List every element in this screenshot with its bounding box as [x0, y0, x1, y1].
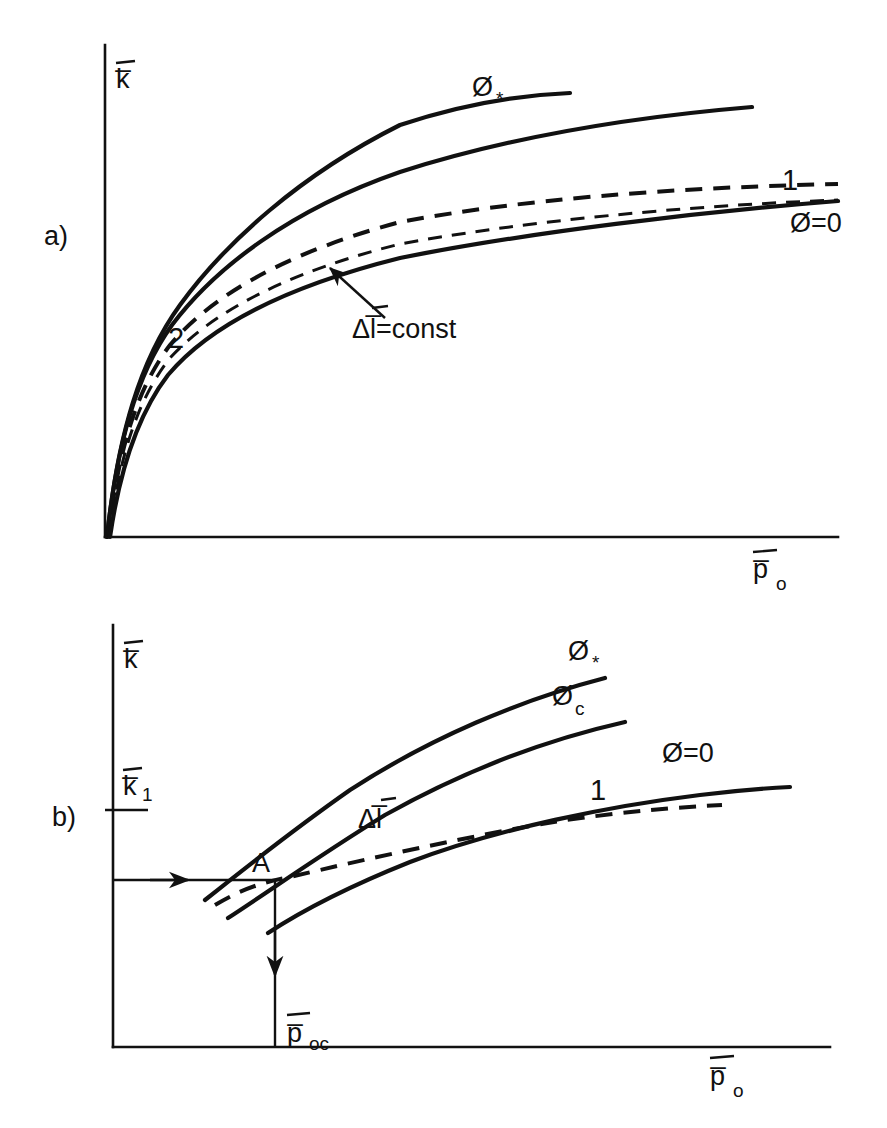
panel-a-y-axis-label: k̅ [115, 61, 135, 94]
svg-text:k̅: k̅ [122, 771, 138, 801]
panel-b-curve-phi-zero [268, 787, 790, 933]
panel-a: a) k̅ p̅ o Ø * 1 Ø=0 2 [44, 45, 842, 594]
panel-b-x-axis-label: p̅ o [710, 1056, 744, 1101]
panel-b-label-phi-zero: Ø=0 [662, 738, 714, 768]
panel-a-label-two: 2 [168, 322, 184, 354]
svg-text:Δl̅=const: Δl̅=const [352, 314, 457, 344]
svg-text:p̅: p̅ [287, 1018, 303, 1048]
svg-text:Ø: Ø [552, 681, 573, 711]
svg-text:p̅: p̅ [753, 554, 769, 584]
panel-a-label-one: 1 [782, 164, 798, 196]
panel-a-curve-phi-star [107, 93, 570, 537]
svg-text:oc: oc [309, 1033, 329, 1054]
figure-root: a) k̅ p̅ o Ø * 1 Ø=0 2 [0, 0, 887, 1128]
panel-b-y-axis-label: k̅ [123, 641, 143, 674]
panel-b-label-phi-star: Ø * [568, 636, 600, 673]
technical-diagram-svg: a) k̅ p̅ o Ø * 1 Ø=0 2 [0, 0, 887, 1128]
panel-b-curve-phi-c [228, 722, 625, 918]
panel-a-x-axis-label: p̅ o [753, 550, 787, 594]
svg-text:Ø: Ø [568, 636, 589, 666]
svg-text:k̅: k̅ [123, 644, 139, 674]
panel-a-label: a) [44, 221, 68, 251]
panel-b-label-one: 1 [590, 774, 606, 806]
svg-text:o: o [776, 573, 787, 594]
svg-text:Ø: Ø [472, 72, 493, 102]
svg-text:Δl̅: Δl̅ [358, 804, 387, 834]
panel-a-curve-delta-l-lower [109, 200, 838, 537]
panel-b: b) k̅ k̅ 1 p̅ o p̅ oc [52, 625, 830, 1101]
panel-b-curve-delta-l [215, 805, 722, 905]
svg-text:*: * [496, 88, 504, 109]
panel-b-label-delta-l: Δl̅ [358, 798, 396, 834]
svg-text:o: o [733, 1080, 744, 1101]
svg-text:*: * [592, 652, 600, 673]
panel-b-label: b) [52, 802, 76, 832]
panel-a-delta-l-leader [330, 268, 385, 318]
svg-text:c: c [575, 698, 585, 719]
svg-text:k̅: k̅ [115, 64, 131, 94]
panel-a-curve-phi-zero [110, 201, 838, 537]
panel-a-label-phi-zero: Ø=0 [790, 208, 842, 238]
svg-text:p̅: p̅ [710, 1061, 726, 1091]
panel-a-label-delta-l: Δl̅=const [352, 306, 457, 344]
panel-a-curve-delta-l-upper [108, 184, 838, 537]
svg-text:1: 1 [142, 784, 153, 805]
panel-b-label-point-a: A [252, 848, 270, 878]
